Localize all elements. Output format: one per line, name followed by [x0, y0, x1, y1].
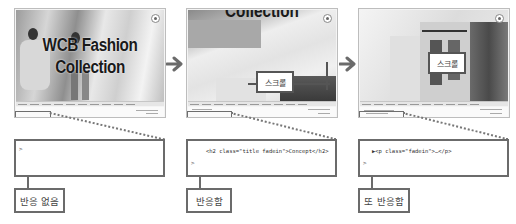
browser-screenshot: Collection 스크롤: [186, 8, 338, 118]
code-callout: ▶<p class="fadein">…</p> >: [358, 139, 509, 177]
hero-photo: 스크롤: [360, 10, 508, 101]
code-caret: >: [363, 159, 367, 166]
code-callout: <h2 class="title fadein">Concept</h2> >: [186, 139, 337, 177]
devtools-toolbar: [360, 101, 508, 106]
label-connector: [27, 177, 29, 188]
label-connector: [371, 177, 373, 188]
status-label: 반응함: [186, 188, 232, 213]
panel-no-response: WCB Fashion Collection > 반응 없음: [14, 0, 166, 224]
selected-element-highlight: [187, 111, 232, 118]
close-circle-icon[interactable]: [151, 14, 160, 23]
code-caret: >: [191, 159, 195, 166]
code-caret: >: [19, 145, 23, 152]
browser-screenshot: 스크롤: [358, 8, 510, 118]
scroll-label: 스크롤: [256, 71, 294, 93]
status-label: 반응 없음: [14, 188, 65, 213]
label-connector: [199, 177, 201, 188]
arrow-right-icon: [166, 56, 184, 72]
panel-responds: Collection 스크롤 <h2 class="title fadein">…: [186, 0, 338, 224]
hero-title: WCB Fashion Collection: [27, 34, 153, 78]
close-circle-icon[interactable]: [323, 14, 332, 23]
scroll-label: 스크롤: [428, 52, 466, 74]
hero-photo: Collection 스크롤: [188, 10, 336, 101]
arrow-right-icon: [339, 56, 357, 72]
code-callout: >: [14, 139, 165, 177]
selected-element-highlight: [15, 111, 51, 118]
status-label: 또 반응함: [358, 188, 410, 213]
close-circle-icon[interactable]: [495, 14, 504, 23]
devtools-toolbar: [16, 101, 164, 106]
selected-element-highlight: [359, 111, 404, 118]
code-line: <h2 class="title fadein">Concept</h2>: [206, 148, 329, 154]
browser-screenshot: WCB Fashion Collection: [14, 8, 166, 118]
code-line: ▶<p class="fadein">…</p>: [372, 148, 451, 154]
devtools-toolbar: [188, 101, 336, 106]
panel-responds-again: 스크롤 ▶<p class="fadein">…</p> > 또 반응함: [358, 0, 510, 224]
hero-photo: WCB Fashion Collection: [16, 10, 164, 101]
